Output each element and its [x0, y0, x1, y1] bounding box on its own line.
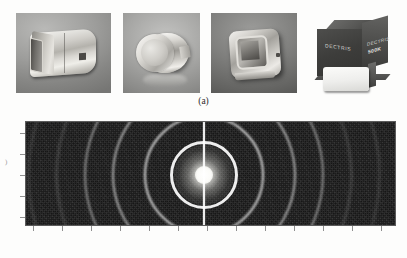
- y-axis-ticks: [17, 121, 25, 226]
- detector-seam-line: [64, 33, 65, 73]
- x-tick: [120, 226, 121, 231]
- detector-noise-background: [26, 122, 395, 225]
- x-tick: [62, 226, 63, 231]
- detector-label-plate: [79, 53, 86, 60]
- x-tick: [294, 226, 295, 231]
- x-tick: [265, 226, 266, 231]
- x-tick: [178, 226, 179, 231]
- diffraction-image: [25, 121, 396, 226]
- detector-panel-side: [368, 62, 376, 88]
- x-tick: [149, 226, 150, 231]
- x-axis-ticks: [25, 226, 396, 234]
- figure-root: DECTRIS DECTRIS 500K (a) ) (b): [0, 0, 407, 258]
- panel-a-caption: (a): [0, 96, 407, 106]
- photo-detector-cylindrical-front: [123, 13, 200, 93]
- photo-detector-square-aperture: [211, 13, 297, 93]
- detector-white-front-panel: [323, 67, 369, 91]
- detector-aperture-interior: [240, 40, 259, 60]
- axis-hint-marker: ): [5, 158, 7, 166]
- photo-dectris-boxed-detector: DECTRIS DECTRIS 500K: [307, 12, 403, 100]
- x-tick: [33, 226, 34, 231]
- photo-detector-angled-view: [16, 13, 111, 93]
- x-tick: [323, 226, 324, 231]
- surface-reflection: [143, 73, 187, 87]
- panel-b-diffraction: ) (b): [0, 110, 407, 244]
- detector-entrance-window: [30, 37, 43, 73]
- x-tick: [207, 226, 208, 231]
- x-tick: [381, 226, 382, 231]
- detector-connector-port: [276, 53, 280, 57]
- panel-a-photo-strip: DECTRIS DECTRIS 500K (a): [0, 0, 407, 104]
- detector-mount-tab: [179, 45, 191, 58]
- detector-base-foot: [235, 71, 275, 81]
- x-tick: [236, 226, 237, 231]
- x-tick: [352, 226, 353, 231]
- x-tick: [91, 226, 92, 231]
